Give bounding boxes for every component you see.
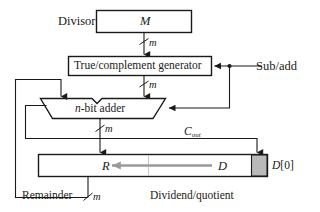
register-r-label: R bbox=[102, 160, 110, 173]
adder-label: n-bit adder bbox=[75, 103, 125, 115]
carry-out-label-sub: out bbox=[192, 131, 201, 139]
width-divisor-label: m bbox=[149, 38, 157, 49]
generator-label: True/complement generator bbox=[74, 60, 202, 72]
adder-label-suffix: -bit adder bbox=[81, 102, 125, 114]
sub-add-label: Sub/add bbox=[256, 60, 297, 73]
wire-carry-out bbox=[168, 139, 257, 153]
register-d-label: D bbox=[218, 160, 227, 173]
d0-shaded-cell bbox=[252, 155, 268, 176]
width-adder-out-label: m bbox=[105, 124, 113, 135]
divisor-register-label: M bbox=[140, 15, 150, 28]
d0-label-index: [0] bbox=[280, 159, 293, 171]
width-remainder-label: m bbox=[93, 192, 101, 203]
dividend-quotient-label: Dividend/quotient bbox=[150, 190, 234, 202]
carry-out-label-base: C bbox=[184, 125, 192, 137]
wire-divisor-to-generator bbox=[140, 33, 149, 55]
d0-label: D[0] bbox=[272, 160, 294, 172]
wire-remainder-feedback-outer bbox=[16, 80, 93, 201]
carry-out-label: Cout bbox=[184, 126, 201, 138]
divisor-label: Divisor bbox=[58, 15, 96, 28]
diagram-canvas bbox=[0, 0, 320, 212]
wire-adder-to-register bbox=[96, 119, 105, 153]
width-generator-out-label: m bbox=[149, 80, 157, 91]
wire-generator-to-adder bbox=[140, 76, 149, 97]
divider-datapath-diagram: Divisor M True/complement generator Sub/… bbox=[0, 0, 320, 212]
shift-register-box bbox=[39, 155, 268, 177]
remainder-label: Remainder bbox=[22, 190, 72, 202]
